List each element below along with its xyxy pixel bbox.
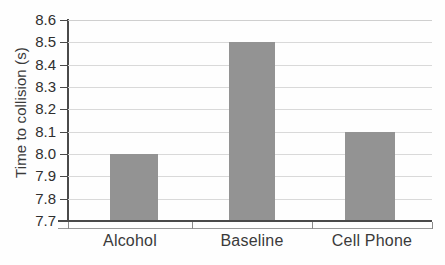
x-axis-separator-tick (192, 222, 193, 229)
y-axis-tick-label: 8.0 (0, 146, 56, 161)
bar-chart: Time to collision (s) 8.68.58.48.38.28.1… (0, 0, 445, 265)
y-axis-tick-label: 8.6 (0, 12, 56, 27)
x-axis-label-cell-phone: Cell Phone (312, 232, 432, 250)
bar-cell-phone[interactable] (345, 132, 395, 221)
y-axis-tick-label: 7.8 (0, 191, 56, 206)
x-axis-label-baseline: Baseline (192, 232, 312, 250)
bars-group (68, 20, 432, 221)
y-axis-tick-label: 8.5 (0, 34, 56, 49)
bar-baseline[interactable] (229, 42, 275, 221)
y-axis-tick-label: 8.4 (0, 57, 56, 72)
y-axis-tick-label: 7.9 (0, 168, 56, 183)
bar-alcohol[interactable] (110, 154, 158, 221)
y-axis-tick-label: 7.7 (0, 213, 56, 228)
x-axis-separator-tick (312, 222, 313, 229)
plot-area (68, 20, 432, 221)
x-axis-separator-tick (68, 222, 69, 229)
y-axis-tick-label: 8.3 (0, 79, 56, 94)
y-axis-tick-label: 8.2 (0, 101, 56, 116)
x-axis-line (58, 220, 432, 222)
x-axis-separator-line (58, 228, 432, 229)
y-axis-tick-label: 8.1 (0, 124, 56, 139)
x-axis-label-alcohol: Alcohol (68, 232, 192, 250)
x-axis-separator-tick (432, 222, 433, 229)
